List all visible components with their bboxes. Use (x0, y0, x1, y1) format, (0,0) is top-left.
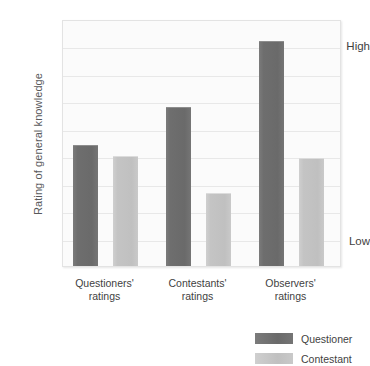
x-axis-label-line: Observers' (236, 277, 346, 290)
legend-swatch-questioner (255, 333, 293, 344)
legend-item-contestant[interactable]: Contestant (255, 350, 352, 366)
plot-area (62, 20, 341, 267)
legend-swatch-contestant (255, 353, 293, 364)
bar-questioner-1 (73, 145, 98, 266)
bar-chart: Rating of general knowledge High Low Que… (0, 0, 370, 366)
x-axis-label-3: Observers'ratings (236, 277, 346, 303)
legend-item-questioner[interactable]: Questioner (255, 330, 352, 347)
y-axis-title: Rating of general knowledge (32, 44, 44, 244)
bar-contestant-2 (206, 193, 231, 266)
bars-layer (63, 21, 340, 266)
bar-questioner-3 (259, 41, 284, 266)
legend-label-questioner: Questioner (301, 333, 352, 345)
chart-legend: QuestionerContestant (255, 330, 352, 366)
x-axis-label-line: ratings (236, 290, 346, 303)
bar-contestant-3 (299, 158, 324, 266)
bar-contestant-1 (113, 156, 138, 266)
bar-questioner-2 (166, 107, 191, 266)
legend-label-contestant: Contestant (301, 353, 352, 365)
